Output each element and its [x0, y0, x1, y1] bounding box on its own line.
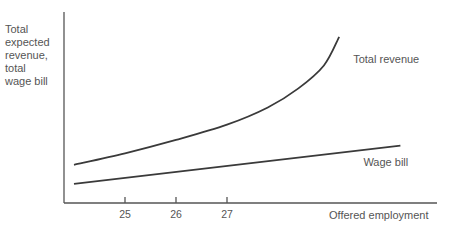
total-revenue-line [74, 37, 339, 165]
series: Total revenueWage bill [74, 37, 419, 184]
y-axis-label-line: total [5, 62, 26, 74]
x-tick-label: 26 [170, 208, 182, 220]
x-axis-label: Offered employment [329, 209, 428, 221]
chart: Totalexpectedrevenue,totalwage bill 2526… [0, 0, 453, 230]
y-axis-label-line: revenue, [5, 49, 48, 61]
y-axis-label-line: expected [5, 36, 50, 48]
total-revenue-label: Total revenue [353, 53, 419, 65]
wage-bill-label: Wage bill [363, 156, 408, 168]
y-axis-label-line: wage bill [4, 75, 48, 87]
x-tick-label: 25 [119, 208, 131, 220]
wage-bill-line [74, 146, 400, 184]
y-axis-label-line: Total [5, 23, 28, 35]
x-ticks: 252627 [119, 197, 233, 220]
x-tick-label: 27 [221, 208, 233, 220]
y-axis-label: Totalexpectedrevenue,totalwage bill [4, 23, 50, 87]
